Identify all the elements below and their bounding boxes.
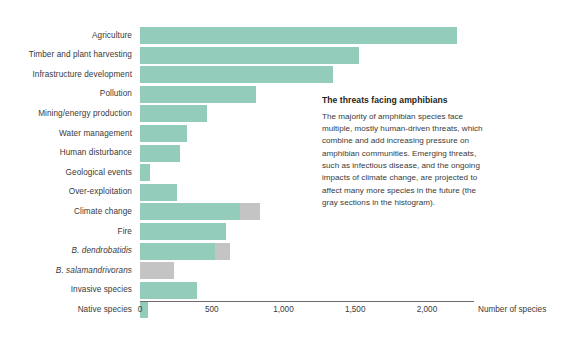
- bar-segment-current: [140, 282, 197, 299]
- bar-human-disturbance[interactable]: [140, 145, 180, 162]
- bar-agriculture[interactable]: [140, 27, 457, 44]
- annotation-body: The majority of amphibian species face m…: [322, 111, 492, 209]
- category-label: Geological events: [66, 169, 132, 177]
- category-label: Water management: [59, 130, 132, 138]
- category-label: Timber and plant harvesting: [29, 51, 132, 59]
- category-label: B. dendrobatidis: [72, 247, 132, 255]
- bar-climate-change[interactable]: [140, 203, 260, 220]
- bar-segment-current: [140, 184, 177, 201]
- category-label: Climate change: [74, 208, 132, 216]
- bar-segment-current: [140, 145, 180, 162]
- category-label: Invasive species: [71, 286, 132, 294]
- category-label: Agriculture: [92, 32, 132, 40]
- category-label: Human disturbance: [60, 149, 132, 157]
- bar-segment-current: [140, 47, 359, 64]
- bar-geological-events[interactable]: [140, 164, 150, 181]
- category-label: Fire: [118, 228, 132, 236]
- bar-row: [140, 222, 470, 242]
- bar-row: [140, 65, 470, 85]
- category-label-row: Over-exploitation: [0, 183, 132, 203]
- bar-segment-current: [140, 243, 215, 260]
- amphibian-threats-chart-figure: AgricultureTimber and plant harvestingIn…: [0, 0, 562, 343]
- category-label-row: Infrastructure development: [0, 65, 132, 85]
- bar-pollution[interactable]: [140, 86, 256, 103]
- bar-segment-projected: [215, 243, 229, 260]
- bar-segment-projected: [140, 262, 174, 279]
- bar-row: [140, 26, 470, 46]
- category-label-row: Geological events: [0, 163, 132, 183]
- category-label-row: Invasive species: [0, 281, 132, 301]
- bar-row: [140, 242, 470, 262]
- bar-invasive-species[interactable]: [140, 282, 197, 299]
- x-tick-label: 0: [138, 306, 143, 314]
- category-label-row: B. dendrobatidis: [0, 242, 132, 262]
- category-label: Over-exploitation: [69, 188, 132, 196]
- bar-row: [140, 281, 470, 301]
- category-label: Mining/energy production: [38, 110, 132, 118]
- bar-b-dendrobatidis[interactable]: [140, 243, 230, 260]
- x-tick-label: 2,000: [417, 306, 438, 314]
- bar-water-management[interactable]: [140, 125, 187, 142]
- category-label-row: Pollution: [0, 85, 132, 105]
- category-label-row: Water management: [0, 124, 132, 144]
- bar-row: [140, 46, 470, 66]
- category-label: Infrastructure development: [33, 71, 132, 79]
- bar-b-salamandrivorans[interactable]: [140, 262, 174, 279]
- bar-segment-current: [140, 223, 226, 240]
- bar-segment-current: [140, 27, 457, 44]
- category-label: Pollution: [100, 90, 132, 98]
- x-axis-line: [140, 301, 474, 302]
- bar-fire[interactable]: [140, 223, 226, 240]
- bar-segment-current: [140, 66, 333, 83]
- category-label-row: Timber and plant harvesting: [0, 46, 132, 66]
- bar-infrastructure-development[interactable]: [140, 66, 333, 83]
- category-label-row: Fire: [0, 222, 132, 242]
- x-tick-label: 500: [205, 306, 219, 314]
- category-label-row: Climate change: [0, 202, 132, 222]
- annotation-panel: The threats facing amphibians The majori…: [322, 96, 492, 209]
- x-axis-title: Number of species: [478, 306, 546, 314]
- x-tick-label: 1,000: [273, 306, 294, 314]
- bar-segment-current: [140, 164, 150, 181]
- bar-segment-current: [140, 105, 207, 122]
- bar-mining-energy-production[interactable]: [140, 105, 207, 122]
- category-label-row: Mining/energy production: [0, 104, 132, 124]
- bar-segment-current: [140, 203, 240, 220]
- category-label-row: B. salamandrivorans: [0, 261, 132, 281]
- category-label-row: Human disturbance: [0, 144, 132, 164]
- bar-segment-current: [140, 86, 256, 103]
- annotation-title: The threats facing amphibians: [322, 96, 492, 106]
- category-label-row: Agriculture: [0, 26, 132, 46]
- category-axis-labels: AgricultureTimber and plant harvestingIn…: [0, 26, 132, 301]
- bar-segment-projected: [240, 203, 260, 220]
- bar-segment-current: [140, 125, 187, 142]
- x-tick-label: 1,500: [345, 306, 366, 314]
- bar-row: [140, 261, 470, 281]
- bar-timber-and-plant-harvesting[interactable]: [140, 47, 359, 64]
- bar-over-exploitation[interactable]: [140, 184, 177, 201]
- category-label: B. salamandrivorans: [56, 267, 132, 275]
